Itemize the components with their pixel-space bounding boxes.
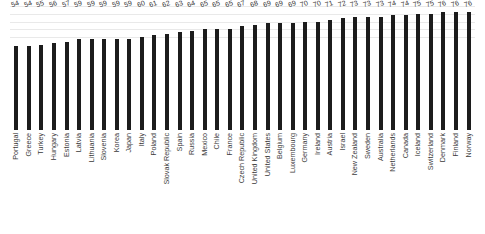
bar-slot[interactable]: 69	[261, 6, 274, 130]
bar[interactable]: 62	[165, 34, 169, 130]
bar-slot[interactable]: 67	[236, 6, 249, 130]
bar-slot[interactable]: 54	[10, 6, 23, 130]
category-label: Portugal	[13, 133, 20, 160]
bar-slot[interactable]: 73	[374, 6, 387, 130]
bar-slot[interactable]: 56	[48, 6, 61, 130]
bar-slot[interactable]: 59	[98, 6, 111, 130]
bar-slot[interactable]: 60	[136, 6, 149, 130]
bar-slot[interactable]: 64	[186, 6, 199, 130]
category-label: Mexico	[201, 133, 208, 156]
category-label: Sweden	[364, 133, 371, 159]
bar-slot[interactable]: 76	[437, 6, 450, 130]
bar[interactable]: 55	[39, 45, 43, 130]
bar[interactable]: 65	[215, 29, 219, 130]
bar[interactable]: 76	[441, 12, 445, 130]
bar-slot[interactable]: 70	[299, 6, 312, 130]
bar-slot[interactable]: 68	[249, 6, 262, 130]
category-label: Estonia	[63, 133, 70, 157]
bar[interactable]: 70	[303, 22, 307, 131]
bar-slot[interactable]: 63	[173, 6, 186, 130]
category-label-slot: Portugal	[10, 131, 23, 231]
bar-slot[interactable]: 59	[123, 6, 136, 130]
bar[interactable]: 56	[52, 43, 56, 130]
bar[interactable]: 59	[90, 39, 94, 130]
bar[interactable]: 75	[429, 14, 433, 130]
bar-slot[interactable]: 55	[35, 6, 48, 130]
bar[interactable]: 76	[467, 12, 471, 130]
bar-slot[interactable]: 59	[85, 6, 98, 130]
bar-value-label: 62	[161, 0, 170, 8]
category-label: Finland	[452, 133, 459, 157]
bar[interactable]: 74	[391, 15, 395, 130]
bar-value-label: 67	[237, 0, 246, 8]
bar[interactable]: 74	[404, 15, 408, 130]
bar-slot[interactable]: 72	[337, 6, 350, 130]
bar-slot[interactable]: 70	[312, 6, 325, 130]
bar[interactable]: 69	[291, 23, 295, 130]
plot-area: 5454555657595959595960616263646565656768…	[10, 6, 475, 130]
bar-value-label: 56	[48, 0, 57, 8]
bar-slot[interactable]: 62	[161, 6, 174, 130]
bar[interactable]: 71	[328, 20, 332, 130]
bar[interactable]: 72	[341, 18, 345, 130]
bar[interactable]: 59	[77, 39, 81, 130]
bar-value-label: 65	[212, 0, 221, 8]
bar[interactable]: 64	[190, 31, 194, 130]
bar-chart: 5454555657595959595960616263646565656768…	[0, 0, 485, 234]
bar-slot[interactable]: 54	[23, 6, 36, 130]
category-label-slot: Finland	[450, 131, 463, 231]
bar[interactable]: 59	[127, 39, 131, 130]
category-label-slot: Mexico	[198, 131, 211, 231]
bar-value-label: 74	[400, 0, 409, 8]
bar[interactable]: 65	[203, 29, 207, 130]
bar[interactable]: 69	[278, 23, 282, 130]
bar-slot[interactable]: 65	[211, 6, 224, 130]
bar[interactable]: 63	[178, 32, 182, 130]
bar[interactable]: 73	[379, 17, 383, 130]
bar[interactable]: 57	[65, 42, 69, 130]
category-label: Russia	[189, 133, 196, 155]
bar-slot[interactable]: 76	[450, 6, 463, 130]
bar[interactable]: 73	[353, 17, 357, 130]
bar-slot[interactable]: 57	[60, 6, 73, 130]
bar-slot[interactable]: 75	[412, 6, 425, 130]
bar[interactable]: 68	[253, 25, 257, 130]
bar[interactable]: 59	[115, 39, 119, 130]
bar[interactable]: 61	[152, 35, 156, 130]
bar-slot[interactable]: 76	[462, 6, 475, 130]
bar-slot[interactable]: 65	[224, 6, 237, 130]
category-label-slot: Korea	[111, 131, 124, 231]
bar[interactable]: 60	[140, 37, 144, 130]
bar[interactable]: 67	[240, 26, 244, 130]
bar-slot[interactable]: 74	[399, 6, 412, 130]
bar[interactable]: 59	[102, 39, 106, 130]
bar-slot[interactable]: 73	[349, 6, 362, 130]
bar-slot[interactable]: 69	[274, 6, 287, 130]
bar-slot[interactable]: 59	[111, 6, 124, 130]
category-label-slot: Slovak Republic	[161, 131, 174, 231]
category-label: Lithuania	[88, 133, 95, 162]
bar[interactable]: 73	[366, 17, 370, 130]
bar-slot[interactable]: 71	[324, 6, 337, 130]
bar-slot[interactable]: 73	[362, 6, 375, 130]
bar-slot[interactable]: 69	[286, 6, 299, 130]
bar-slot[interactable]: 61	[148, 6, 161, 130]
bar[interactable]: 70	[316, 22, 320, 131]
bar-value-label: 59	[73, 0, 82, 8]
bar-value-label: 69	[262, 0, 271, 8]
bar[interactable]: 65	[228, 29, 232, 130]
bar[interactable]: 69	[266, 23, 270, 130]
bar[interactable]: 54	[27, 46, 31, 130]
bar-value-label: 76	[463, 0, 472, 8]
bar-value-label: 70	[312, 0, 321, 8]
category-label: Denmark	[440, 133, 447, 162]
bar-slot[interactable]: 65	[198, 6, 211, 130]
category-label-slot: Germany	[299, 131, 312, 231]
bar[interactable]: 54	[14, 46, 18, 130]
bar-slot[interactable]: 74	[387, 6, 400, 130]
bar-slot[interactable]: 59	[73, 6, 86, 130]
bar[interactable]: 75	[416, 14, 420, 130]
bar-slot[interactable]: 75	[425, 6, 438, 130]
bar[interactable]: 76	[454, 12, 458, 130]
category-label: Chile	[214, 133, 221, 149]
